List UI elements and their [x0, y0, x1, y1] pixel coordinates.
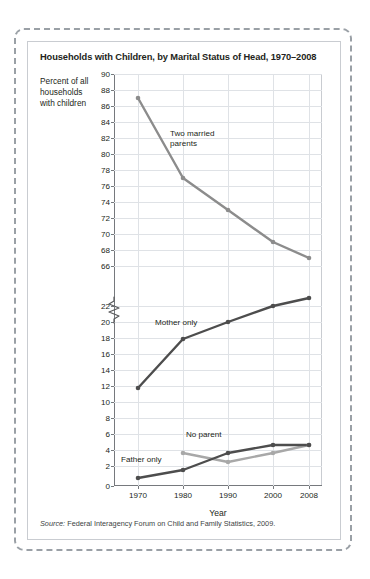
y-tick-label: 88 — [88, 86, 110, 95]
series-label-mother-only: Mother only — [155, 318, 197, 328]
series-label-father-only: Father only — [121, 455, 162, 465]
markers-mother-only — [136, 296, 312, 391]
y-tick-label: 84 — [88, 118, 110, 127]
y-tick-label: 86 — [88, 102, 110, 111]
y-tick-label: 2 — [88, 462, 110, 471]
x-tick-label: 1970 — [129, 491, 147, 500]
x-axis-title: Year — [114, 508, 322, 518]
markers-two-married-parents — [136, 96, 312, 261]
figure-container: Households with Children, by Marital Sta… — [14, 28, 352, 551]
source-note: Source: Federal Interagency Forum on Chi… — [40, 519, 332, 528]
y-tick-label: 8 — [88, 414, 110, 423]
line-mother-only — [138, 298, 309, 388]
y-tick-label: 18 — [88, 334, 110, 343]
y-tick-label: 72 — [88, 214, 110, 223]
y-tick-label: 0 — [88, 482, 110, 491]
y-tick-label: 10 — [88, 398, 110, 407]
source-text: Federal Interagency Forum on Child and F… — [65, 519, 275, 528]
series-lines — [114, 74, 322, 486]
source-label: Source: — [40, 519, 65, 528]
y-tick-label: 6 — [88, 430, 110, 439]
y-tick-label: 12 — [88, 382, 110, 391]
x-tick-label: 1990 — [219, 491, 237, 500]
y-tick-label: 4 — [88, 446, 110, 455]
x-tick-label: 2008 — [300, 491, 318, 500]
y-tick-label: 82 — [88, 134, 110, 143]
plot-area: 90 88 86 84 82 80 78 76 74 72 70 68 66 — [114, 74, 322, 486]
chart-title: Households with Children, by Marital Sta… — [40, 52, 332, 62]
series-label-no-parent: No parent — [186, 430, 222, 440]
y-tick-label: 78 — [88, 166, 110, 175]
y-tick-label: 74 — [88, 198, 110, 207]
line-two-married-parents — [138, 98, 309, 258]
y-tick-label: 76 — [88, 182, 110, 191]
x-tick-label: 1980 — [174, 491, 192, 500]
y-tick-label: 66 — [88, 262, 110, 271]
line-no-parent — [183, 445, 309, 462]
y-tick-label: 80 — [88, 150, 110, 159]
y-tick-label: 14 — [88, 366, 110, 375]
axis-break-icon — [107, 297, 121, 323]
series-label-line1: Two married — [170, 129, 215, 138]
y-tick-label: 16 — [88, 350, 110, 359]
y-tick-label: 90 — [88, 70, 110, 79]
x-tick-label: 2000 — [264, 491, 282, 500]
y-tick-label: 70 — [88, 230, 110, 239]
series-label-two-married-parents: Two married parents — [170, 129, 215, 149]
series-label-line2: parents — [170, 139, 197, 148]
figure-inner-frame: Households with Children, by Marital Sta… — [27, 41, 341, 540]
y-tick-label: 68 — [88, 246, 110, 255]
